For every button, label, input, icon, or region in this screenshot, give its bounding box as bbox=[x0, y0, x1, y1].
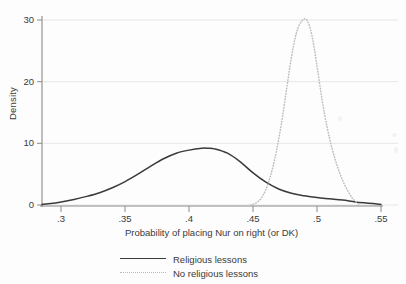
legend-line-dotted-icon bbox=[120, 268, 166, 278]
scan-artifact bbox=[394, 147, 398, 153]
scan-artifact bbox=[338, 116, 342, 121]
y-tick-label-10: 10 bbox=[8, 137, 34, 148]
x-tick-label-1: .35 bbox=[110, 213, 140, 224]
series-religious-lessons-curve bbox=[42, 148, 381, 204]
legend-item-no-religious-lessons: No religious lessons bbox=[120, 266, 320, 280]
series-no-religious-lessons-curve bbox=[251, 19, 360, 205]
density-plot-figure: Density 30 20 10 0 .3 .35 .4 .45 .5 .55 … bbox=[0, 0, 406, 284]
legend-item-religious-lessons: Religious lessons bbox=[120, 252, 320, 266]
legend-label-religious-lessons: Religious lessons bbox=[173, 254, 247, 265]
x-axis-title: Probability of placing Nur on right (or … bbox=[42, 227, 381, 238]
x-tick-marks bbox=[61, 206, 381, 212]
x-tick-label-2: .4 bbox=[174, 213, 204, 224]
legend-line-solid-icon bbox=[120, 254, 166, 264]
y-tick-marks bbox=[37, 20, 42, 205]
x-tick-label-5: .55 bbox=[366, 213, 396, 224]
x-tick-label-4: .5 bbox=[302, 213, 332, 224]
chart-legend: Religious lessons No religious lessons bbox=[120, 252, 320, 280]
y-tick-label-0: 0 bbox=[8, 199, 34, 210]
axis-lines bbox=[40, 16, 383, 207]
y-tick-label-20: 20 bbox=[8, 76, 34, 87]
plot-canvas bbox=[0, 0, 406, 284]
gridlines bbox=[42, 20, 398, 205]
x-tick-label-0: .3 bbox=[46, 213, 76, 224]
scan-artifact bbox=[392, 133, 397, 137]
y-tick-label-30: 30 bbox=[8, 14, 34, 25]
legend-label-no-religious-lessons: No religious lessons bbox=[173, 268, 258, 279]
x-tick-label-3: .45 bbox=[238, 213, 268, 224]
